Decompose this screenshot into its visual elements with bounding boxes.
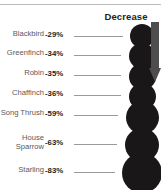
row-value: -59%	[45, 109, 73, 118]
row-list: Blackbird-29%Greenfinch-34%Robin-35%Chaf…	[0, 0, 161, 190]
leader-line	[74, 95, 121, 96]
decrease-bubble-chart: Decrease Blackbird-29%Greenfinch-34%Robi…	[0, 0, 161, 190]
row-label: Song Thrush	[0, 109, 44, 118]
row-label: Blackbird	[0, 30, 44, 39]
row-value: -83%	[45, 166, 73, 175]
leader-line	[74, 172, 115, 173]
row-value: -63%	[45, 138, 73, 147]
row-value: -29%	[45, 30, 73, 39]
leader-line	[74, 36, 123, 37]
leader-line	[74, 75, 121, 76]
row-label: Chaffinch	[0, 89, 44, 98]
row-value: -34%	[45, 49, 73, 58]
arrow-down-icon	[149, 22, 161, 88]
leader-line	[74, 115, 118, 116]
row-label: House Sparrow	[0, 134, 44, 151]
row-value: -36%	[45, 89, 73, 98]
leader-line	[74, 55, 121, 56]
row-label: Greenfinch	[0, 49, 44, 58]
row-label: Starling	[0, 166, 44, 175]
row-label: Robin	[0, 69, 44, 78]
row-value: -35%	[45, 69, 73, 78]
leader-line	[74, 144, 117, 145]
